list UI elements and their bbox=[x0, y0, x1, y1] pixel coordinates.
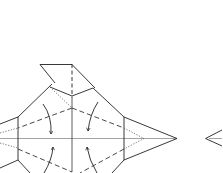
origami-diagram bbox=[0, 0, 222, 173]
next-step-partial bbox=[206, 130, 223, 146]
valley-fold-lines bbox=[18, 108, 124, 173]
top-flap bbox=[40, 65, 95, 97]
fold-arrow-top-left bbox=[43, 104, 51, 134]
fold-arrow-top-right bbox=[88, 102, 98, 131]
fold-arrow-bottom-right bbox=[87, 147, 97, 173]
fold-diagram-canvas bbox=[0, 0, 222, 173]
fold-arrow-bottom-left bbox=[44, 147, 53, 173]
